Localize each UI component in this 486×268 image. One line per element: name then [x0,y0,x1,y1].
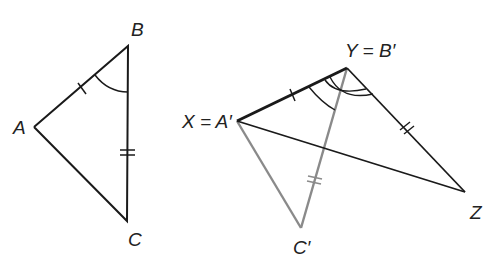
label-y-b-prime: Y = B′ [345,40,397,61]
label-z: Z [469,202,483,223]
label-c: C [128,229,142,250]
triangles-diagram: A B C X = A′ Y = B′ Z C′ [0,0,486,268]
label-a: A [12,117,26,138]
label-x-a-prime: X = A′ [181,111,233,132]
triangle-abc [34,46,135,221]
triangle-xyz [237,68,465,192]
geometry-figure: A B C X = A′ Y = B′ Z C′ [0,0,486,268]
label-b: B [131,19,144,40]
label-c-prime: C′ [293,237,312,258]
